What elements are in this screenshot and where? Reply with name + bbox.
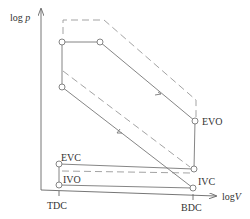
y-axis-label: log p (10, 12, 30, 23)
bdc-label: BDC (181, 202, 202, 213)
x-axis (41, 190, 216, 196)
point-evo (192, 118, 198, 124)
pv-diagram: log p logV TDC BDC EVO EVC IVO (0, 0, 250, 219)
point-ivo (56, 182, 62, 188)
point-combustion-start (59, 39, 65, 45)
point-combustion-end (97, 39, 103, 45)
point-bdc-exhaust (191, 166, 197, 172)
tdc-label: TDC (47, 200, 67, 211)
evo-label: EVO (202, 116, 223, 127)
evc-label: EVC (61, 152, 81, 163)
x-axis-label: logV (222, 191, 243, 202)
ivc-label: IVC (198, 176, 216, 187)
ivo-label: IVO (63, 174, 81, 185)
real-cycle (59, 42, 195, 188)
ideal-cycle-dashed (62, 20, 196, 173)
point-ivc (190, 185, 196, 191)
point-compression (59, 84, 65, 90)
